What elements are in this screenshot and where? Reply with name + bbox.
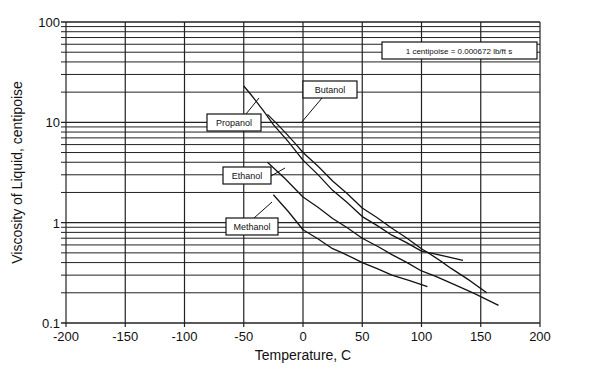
- series-label-butanol: Butanol: [315, 85, 346, 95]
- series-line-butanol: [267, 114, 486, 292]
- x-tick-label: -200: [53, 329, 79, 344]
- x-tick-label: 0: [299, 329, 306, 344]
- x-tick-label: -100: [171, 329, 197, 344]
- x-axis-title: Temperature, C: [255, 347, 351, 363]
- series-line-methanol: [273, 195, 427, 287]
- series-line-ethanol: [267, 162, 498, 305]
- y-tick-label: 1: [53, 216, 60, 231]
- x-tick-label: 50: [355, 329, 369, 344]
- unit-conversion-note: 1 centipoise = 0.000672 lb/ft s: [406, 47, 513, 56]
- y-tick-label: 100: [38, 15, 60, 30]
- series-label-methanol: Methanol: [233, 222, 270, 232]
- y-tick-label: 10: [46, 115, 60, 130]
- leader-line: [254, 202, 272, 218]
- leader-line: [301, 98, 322, 123]
- y-tick-label: 0.1: [42, 316, 60, 331]
- leader-line: [246, 98, 259, 114]
- x-tick-label: -50: [234, 329, 253, 344]
- viscosity-chart: -200-150-100-500501001502000.1110100Temp…: [0, 0, 590, 370]
- y-axis-title: Viscosity of Liquid, centipoise: [9, 81, 25, 264]
- x-tick-label: 150: [470, 329, 492, 344]
- x-tick-label: -150: [112, 329, 138, 344]
- series-label-ethanol: Ethanol: [232, 171, 263, 181]
- x-tick-label: 100: [411, 329, 433, 344]
- series-label-propanol: Propanol: [216, 118, 252, 128]
- x-tick-label: 200: [529, 329, 551, 344]
